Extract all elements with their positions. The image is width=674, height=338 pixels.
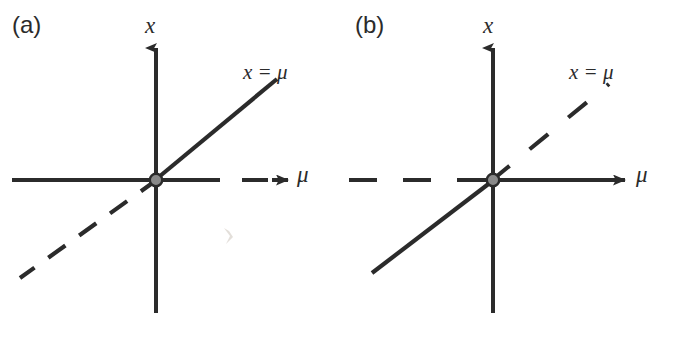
panel-b-origin-dot xyxy=(487,174,499,186)
panel-b-label: (b) xyxy=(355,11,384,39)
panel-b-mu-axis-label: μ xyxy=(636,163,648,186)
panel-b-diagram xyxy=(337,0,674,338)
panel-a-line-equation-label: x = μ xyxy=(243,62,288,83)
panel-b-branch-lower-left-solid xyxy=(372,179,495,273)
panel-a-diagram xyxy=(0,0,337,338)
panel-a-mu-axis-label: μ xyxy=(297,163,309,186)
panel-b-x-axis-label: x xyxy=(483,14,493,37)
panel-b: (b) x μ x = μ xyxy=(337,0,674,338)
panel-a-branch-lower-left-dashed xyxy=(20,179,158,278)
panel-a-label: (a) xyxy=(12,11,41,39)
paper-smudge-artifact xyxy=(224,228,233,244)
panel-b-branch-upper-right-dashed xyxy=(491,84,609,181)
panel-a-branch-upper-right-solid xyxy=(154,79,277,181)
panel-b-line-equation-label: x = μ xyxy=(569,62,614,83)
panel-a: (a) x μ x = μ xyxy=(0,0,337,338)
panel-a-origin-dot xyxy=(150,174,162,186)
figure-container: (a) x μ x = μ xyxy=(0,0,674,338)
panel-a-x-axis-label: x xyxy=(145,14,155,37)
